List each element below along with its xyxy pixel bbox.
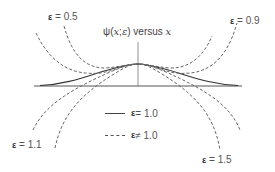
chart-title: ψ(x;ε) versus x [103,27,171,37]
title-x2: x [166,26,172,37]
eps-value: = 1.1 [16,139,41,150]
eps-value: = 1.5 [206,154,231,165]
legend-solid-label: = 1.0 [135,108,158,119]
eps-value: = 0.9 [234,15,259,26]
legend-dashed-label: ≠ 1.0 [135,130,157,141]
legend-entry-solid: ε = 1.0 [105,102,158,124]
title-mid: ) versus [127,26,165,37]
label-eps-1-5: ε = 1.5 [202,155,232,165]
legend: ε = 1.0 ε ≠ 1.0 [105,102,158,146]
legend-entry-dashed: ε ≠ 1.0 [105,124,158,146]
label-eps-0-5: ε = 0.5 [48,12,78,22]
solid-line-swatch-icon [105,113,125,114]
label-eps-1-1: ε = 1.1 [12,140,42,150]
eps-value: = 0.5 [52,11,77,22]
dashed-line-swatch-icon [105,135,125,136]
label-eps-0-9: ε = 0.9 [230,16,260,26]
title-psi: ψ( [103,26,113,37]
